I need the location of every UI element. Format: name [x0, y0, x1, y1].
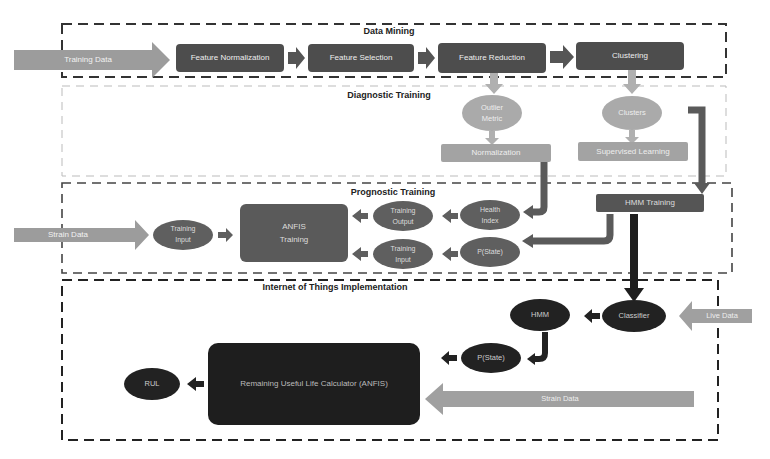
training-input-left-node: Training Input: [153, 220, 213, 250]
arrowhead-classifier: [624, 288, 644, 302]
svg-text:Strain Data: Strain Data: [541, 394, 579, 403]
arrow-normalization-to-health-index: [532, 162, 544, 212]
arrow-hmm-training-to-pstate: [532, 214, 610, 241]
normalization-box: Normalization: [441, 144, 551, 162]
arrow-rul-calc-to-rul: [187, 377, 204, 391]
clustering-box: Clustering: [576, 42, 684, 70]
anfis-training-box: ANFIS Training: [240, 204, 348, 262]
arrow-health-to-output: [442, 209, 458, 223]
arrow-selection-to-reduction: [418, 47, 435, 69]
svg-text:Classifier: Classifier: [619, 311, 650, 320]
svg-text:RUL: RUL: [144, 379, 159, 388]
arrow-pstate-to-input: [442, 247, 458, 261]
arrow-input-to-anfis: [218, 228, 233, 242]
svg-text:P(State): P(State): [477, 353, 505, 362]
svg-text:Training: Training: [390, 207, 415, 215]
svg-text:Index: Index: [481, 217, 499, 224]
arrow-hmm-training-to-classifier: [630, 214, 638, 290]
arrow-input-to-anfis-lower: [352, 247, 368, 261]
svg-text:Training: Training: [390, 245, 415, 253]
strain-data-arrow-training: Strain Data: [14, 220, 149, 250]
arrow-clusters-to-supervised: [625, 130, 639, 144]
arrow-pstate-to-rul-calc: [441, 351, 457, 365]
arrowhead-pstate-training: [522, 234, 533, 248]
svg-text:HMM Training: HMM Training: [625, 198, 675, 207]
arrow-norm-to-selection: [288, 47, 305, 69]
svg-text:Metric: Metric: [482, 114, 503, 123]
svg-text:Live Data: Live Data: [706, 311, 739, 320]
svg-text:Clusters: Clusters: [618, 108, 646, 117]
section-title-diagnostic: Diagnostic Training: [347, 90, 431, 100]
svg-text:Outlier: Outlier: [481, 103, 504, 112]
svg-text:Feature Normalization: Feature Normalization: [191, 53, 270, 62]
section-title-prognostic: Prognostic Training: [351, 187, 436, 197]
arrow-reduction-to-clustering: [550, 45, 574, 69]
svg-text:Training: Training: [280, 235, 309, 244]
svg-text:Clustering: Clustering: [612, 51, 648, 60]
strain-data-arrow-iot: Strain Data: [425, 383, 694, 415]
svg-text:HMM: HMM: [531, 310, 549, 319]
clusters-node: Clusters: [602, 96, 662, 130]
arrowhead-hmm-training: [694, 183, 710, 194]
hmm-training-box: HMM Training: [596, 194, 704, 212]
svg-text:Remaining Useful Life Calculat: Remaining Useful Life Calculator (ANFIS): [240, 379, 388, 388]
svg-text:P(State): P(State): [477, 248, 503, 256]
health-index-node: Health Index: [460, 200, 520, 230]
svg-text:Input: Input: [395, 256, 411, 264]
training-input-node: Training Input: [373, 239, 433, 269]
arrow-reduction-to-outlier: [485, 73, 503, 94]
training-output-node: Training Output: [373, 201, 433, 231]
feature-selection-box: Feature Selection: [308, 44, 414, 72]
rul-node: RUL: [124, 368, 180, 400]
section-title-data-mining: Data Mining: [364, 26, 415, 36]
feature-normalization-box: Feature Normalization: [176, 44, 284, 72]
svg-text:ANFIS: ANFIS: [282, 222, 306, 231]
training-data-arrow: Training Data: [14, 42, 170, 78]
pstate-iot-node: P(State): [461, 343, 521, 373]
svg-text:Supervised Learning: Supervised Learning: [596, 147, 669, 156]
arrowhead-health-index: [523, 205, 533, 219]
arrow-hmm-to-pstate: [534, 332, 545, 359]
svg-text:Feature Reduction: Feature Reduction: [459, 53, 525, 62]
svg-text:Input: Input: [175, 236, 191, 244]
supervised-learning-box: Supervised Learning: [578, 142, 688, 161]
svg-text:Output: Output: [392, 218, 413, 226]
live-data-arrow: Live Data: [679, 301, 752, 331]
arrow-outlier-to-normalization: [485, 131, 499, 145]
svg-text:Health: Health: [480, 206, 500, 213]
section-title-iot: Internet of Things Implementation: [262, 282, 407, 292]
svg-text:Strain Data: Strain Data: [48, 230, 89, 239]
svg-text:Training: Training: [170, 225, 195, 233]
classifier-node: Classifier: [602, 300, 666, 332]
arrow-classifier-to-hmm: [584, 309, 600, 323]
svg-text:Feature Selection: Feature Selection: [330, 53, 393, 62]
arrowhead-pstate-iot: [527, 353, 535, 365]
arrow-clustering-to-clusters: [623, 70, 641, 94]
outlier-metric-node: Outlier Metric: [462, 95, 522, 131]
svg-text:Training Data: Training Data: [64, 55, 112, 64]
pstate-training-node: P(State): [460, 237, 520, 267]
hmm-node: HMM: [510, 299, 570, 331]
rul-calculator-box: Remaining Useful Life Calculator (ANFIS): [208, 343, 420, 425]
arrow-output-to-anfis: [352, 209, 368, 223]
feature-reduction-box: Feature Reduction: [438, 43, 546, 73]
diagram-canvas: Data Mining Diagnostic Training Prognost…: [0, 0, 770, 459]
svg-text:Normalization: Normalization: [472, 148, 521, 157]
arrow-clusters-to-hmm-training: [688, 110, 702, 185]
